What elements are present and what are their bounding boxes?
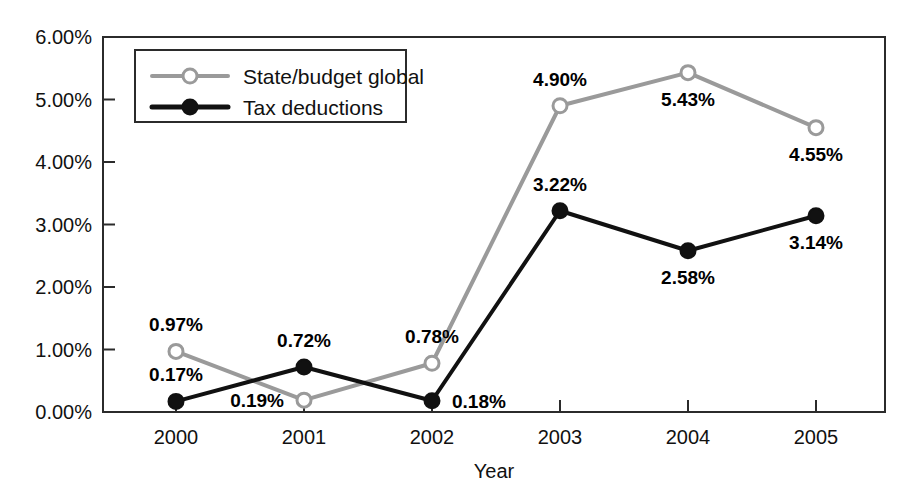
y-tick-label: 4.00% (35, 151, 92, 173)
y-tick-label: 1.00% (35, 339, 92, 361)
x-tick-label: 2005 (794, 426, 839, 448)
data-point-label: 3.14% (789, 232, 843, 253)
series-marker (809, 208, 824, 223)
series-marker (425, 393, 440, 408)
data-point-label: 4.55% (789, 144, 843, 165)
data-point-label: 0.78% (405, 326, 459, 347)
series-marker (169, 394, 184, 409)
series-marker (681, 243, 696, 258)
x-tick-label: 2004 (666, 426, 711, 448)
data-point-label: 0.18% (452, 391, 506, 412)
chart-container: 0.00%1.00%2.00%3.00%4.00%5.00%6.00% 2000… (0, 0, 913, 492)
x-tick-label: 2002 (410, 426, 455, 448)
data-point-label: 3.22% (533, 174, 587, 195)
data-point-label: 0.97% (149, 314, 203, 335)
y-tick-label: 5.00% (35, 89, 92, 111)
y-tick-label: 2.00% (35, 276, 92, 298)
series-marker (297, 393, 311, 407)
y-tick-label: 6.00% (35, 26, 92, 48)
series-marker (553, 99, 567, 113)
legend-marker-swatch (183, 69, 197, 83)
data-point-label: 0.17% (149, 364, 203, 385)
legend-marker-swatch (183, 100, 198, 115)
x-tick-label: 2000 (154, 426, 199, 448)
data-point-label: 0.19% (230, 390, 284, 411)
series-marker (553, 203, 568, 218)
series-marker (681, 66, 695, 80)
data-point-label: 5.43% (661, 89, 715, 110)
y-tick-label: 0.00% (35, 401, 92, 423)
legend-item-label: State/budget global (243, 65, 424, 88)
legend: State/budget globalTax deductions (135, 50, 424, 122)
x-tick-label: 2003 (538, 426, 583, 448)
x-tick-label: 2001 (282, 426, 327, 448)
x-axis-title: Year (474, 460, 515, 482)
series-marker (809, 121, 823, 135)
y-tick-label: 3.00% (35, 214, 92, 236)
data-point-label: 2.58% (661, 267, 715, 288)
series-marker (425, 356, 439, 370)
line-chart: 0.00%1.00%2.00%3.00%4.00%5.00%6.00% 2000… (0, 0, 913, 492)
series-marker (297, 360, 312, 375)
legend-item-label: Tax deductions (243, 96, 383, 119)
series-marker (169, 344, 183, 358)
data-point-label: 4.90% (533, 69, 587, 90)
data-point-label: 0.72% (277, 330, 331, 351)
